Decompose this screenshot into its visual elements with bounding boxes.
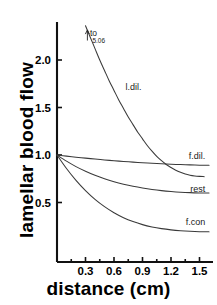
off-scale-annotation: to5.06 — [85, 28, 105, 45]
x-tick-label: 0.3 — [78, 265, 94, 277]
x-tick-label: 0.6 — [106, 265, 122, 277]
annotation-to-text: to — [90, 28, 97, 38]
x-tick-label: 0.9 — [135, 265, 151, 277]
x-tick-label: 1.5 — [192, 265, 209, 277]
curve-fdil — [57, 155, 209, 165]
data-curves — [57, 26, 209, 232]
curve-label-rest: rest — [190, 184, 206, 194]
curve-label-ldil: l.dil. — [125, 82, 141, 92]
x-tick-label: 1.2 — [163, 265, 179, 277]
curve-label-fdil: f.dil. — [189, 151, 206, 161]
annotation-value-text: 5.06 — [92, 37, 105, 44]
curve-labels: l.dil.f.dil.restf.con — [125, 82, 205, 227]
chart-figure: lamellar blood flow distance (cm) 0.51.0… — [0, 0, 217, 305]
y-axis-title: lamellar blood flow — [16, 25, 38, 275]
x-axis-ticks: 0.30.60.91.21.5 — [71, 257, 208, 277]
curve-ldil — [86, 26, 205, 177]
curve-label-fcon: f.con — [186, 217, 206, 227]
x-axis-title: distance (cm) — [0, 278, 217, 300]
